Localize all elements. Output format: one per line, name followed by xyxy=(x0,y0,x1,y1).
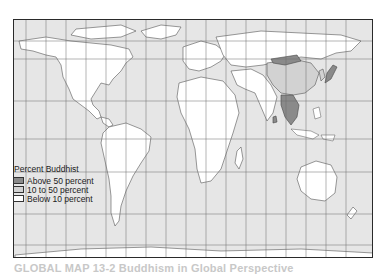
antarctica xyxy=(15,247,373,258)
africa xyxy=(177,77,239,183)
greenland xyxy=(141,25,181,39)
legend-swatch-light xyxy=(13,195,24,202)
madagascar xyxy=(235,147,243,169)
landmasses xyxy=(15,25,373,258)
new-zealand xyxy=(347,207,357,219)
map-legend: Percent Buddhist Above 50 percent 10 to … xyxy=(13,164,113,203)
central-america xyxy=(101,117,113,127)
legend-item-below-10: Below 10 percent xyxy=(13,194,113,203)
sri-lanka xyxy=(273,116,277,123)
region-10-to-50 xyxy=(267,59,325,95)
australia xyxy=(297,161,337,201)
legend-label: Below 10 percent xyxy=(27,194,93,204)
world-map xyxy=(13,19,373,258)
legend-swatch-dark xyxy=(13,177,24,184)
figure-caption: GLOBAL MAP 13-2 Buddhism in Global Persp… xyxy=(14,262,294,274)
world-map-graphic xyxy=(14,20,373,258)
china xyxy=(267,59,319,95)
japan xyxy=(325,65,337,83)
mainland-southeast-asia xyxy=(281,95,299,125)
legend-title: Percent Buddhist xyxy=(14,164,113,174)
legend-swatch-medium xyxy=(13,186,24,193)
korea xyxy=(319,69,325,81)
north-america xyxy=(19,37,133,119)
